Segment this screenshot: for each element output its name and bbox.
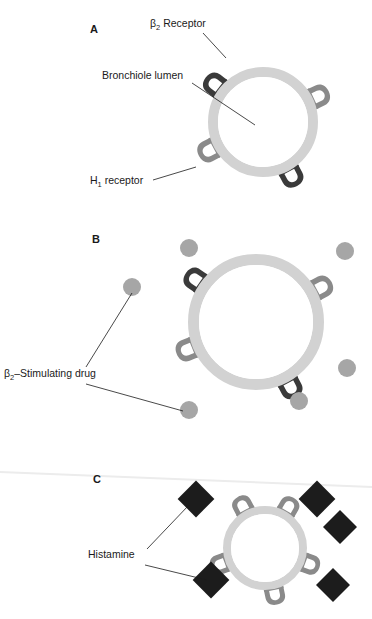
histamine-particle — [193, 562, 230, 599]
histamine-particle — [323, 510, 357, 544]
drug-particle — [336, 242, 354, 260]
panel-a: Aβ2 ReceptorBronchiole lumenH1 receptor — [90, 17, 333, 191]
histamine-leader-lower — [145, 565, 207, 580]
beta2-stimulating-drug-label: β2–Stimulating drug — [4, 367, 96, 382]
panel-b: Bβ2–Stimulating drug — [4, 233, 356, 419]
figure-root: Aβ2 ReceptorBronchiole lumenH1 receptorB… — [0, 0, 372, 619]
panel-b-letter: B — [92, 233, 100, 245]
panel-layer: Aβ2 ReceptorBronchiole lumenH1 receptorB… — [4, 17, 357, 607]
drug-particle — [180, 401, 198, 419]
beta2-receptor-label: β2 Receptor — [150, 17, 206, 32]
panel-b-bronchiole-lumen — [199, 265, 313, 379]
drug-particle — [290, 392, 308, 410]
panel-a-letter: A — [90, 23, 98, 35]
histamine-label-leader — [147, 505, 189, 549]
drug-particle — [338, 359, 356, 377]
panel-c-bronchiole-lumen — [231, 514, 299, 582]
histamine-particle — [316, 568, 350, 602]
drug-leader-lower — [86, 384, 183, 411]
bronchiole-lumen-label: Bronchiole lumen — [102, 69, 183, 81]
panel-c-letter: C — [93, 473, 101, 485]
panel-c: CHistamine — [88, 473, 357, 607]
panel-a-bronchiole-lumen — [218, 77, 308, 167]
figure-svg: Aβ2 ReceptorBronchiole lumenH1 receptorB… — [0, 0, 372, 619]
beta2-receptor-label-leader — [203, 33, 226, 58]
beta2-stimulating-drug-label-leader — [86, 293, 132, 367]
histamine-label: Histamine — [88, 548, 135, 560]
drug-particle — [180, 239, 198, 257]
h1-receptor-label-leader — [153, 167, 196, 180]
h1-receptor-label: H1 receptor — [90, 174, 144, 189]
histamine-particle — [178, 481, 215, 518]
